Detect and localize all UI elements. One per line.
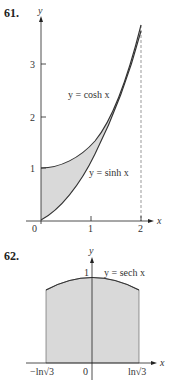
y-axis-label-62: y (88, 245, 94, 256)
shaded-region-62 (46, 278, 139, 364)
x-tick-label-ln-sqrt3: ln√3 (128, 366, 146, 377)
x-axis-label-62: x (159, 357, 165, 368)
x-arrow-61 (148, 219, 154, 223)
shaded-region-61 (41, 25, 141, 220)
x-tick-label-2: 2 (138, 223, 143, 234)
y-arrow-62 (90, 257, 94, 263)
x-tick-label-neg-ln-sqrt3: −ln√3 (30, 366, 54, 377)
y-tick-label-1: 1 (30, 163, 35, 174)
x-tick-label-1: 1 (88, 223, 93, 234)
sinh-label: y = sinh x (89, 167, 129, 178)
plot-62: y x 1 y = sech x −ln√3 0 ln√3 (26, 245, 165, 380)
figures: y x 3 2 1 0 1 2 y = cosh x y = sinh x y … (0, 0, 179, 389)
y-axis-label-61: y (37, 5, 43, 16)
y-tick-label-3: 3 (30, 59, 35, 70)
x-axis-label-61: x (156, 215, 162, 226)
plot-61: y x 3 2 1 0 1 2 y = cosh x y = sinh x (26, 5, 162, 234)
cosh-label: y = cosh x (68, 89, 109, 100)
y-tick-label-1-62: 1 (84, 267, 89, 278)
sech-label: y = sech x (104, 267, 145, 278)
x-tick-label-0-62: 0 (83, 366, 88, 377)
x-arrow-62 (151, 361, 157, 365)
y-tick-label-2: 2 (30, 112, 35, 123)
y-arrow-61 (39, 16, 43, 22)
x-tick-label-0: 0 (32, 223, 37, 234)
